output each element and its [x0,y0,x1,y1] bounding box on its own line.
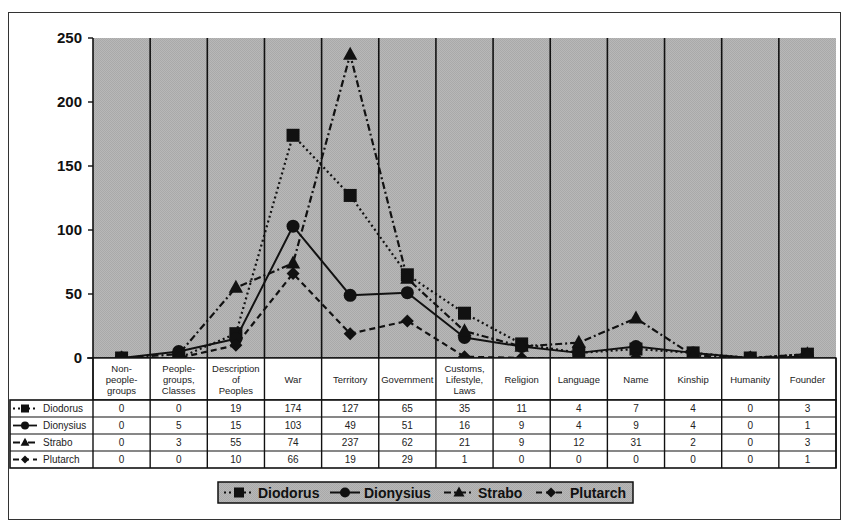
legend-label: Plutarch [570,485,626,501]
series-row-label: Dionysius [43,420,86,431]
table-cell: 55 [230,437,242,448]
category-label: Name [623,374,648,385]
category-label: War [285,374,302,385]
table-cell: 9 [633,420,639,431]
table-cell: 1 [805,454,811,465]
table-cell: 4 [690,420,696,431]
table-cell: 51 [402,420,414,431]
y-tick-label: 250 [57,29,82,46]
square-marker-icon [287,129,300,142]
table-cell: 0 [747,403,753,414]
square-marker-icon [344,189,357,202]
table-cell: 16 [459,420,471,431]
circle-marker-icon [344,289,357,302]
table-cell: 0 [747,437,753,448]
table-cell: 7 [633,403,639,414]
table-cell: 0 [176,454,182,465]
table-cell: 66 [287,454,299,465]
circle-marker-icon [340,488,350,498]
table-cell: 10 [230,454,242,465]
table-cell: 237 [342,437,359,448]
table-cell: 0 [119,403,125,414]
table-cell: 0 [519,454,525,465]
table-cell: 21 [459,437,471,448]
table-cell: 0 [690,454,696,465]
legend-label: Strabo [478,485,522,501]
category-label: Territory [333,374,368,385]
table-cell: 0 [119,420,125,431]
circle-marker-icon [629,340,642,353]
table-cell: 15 [230,420,242,431]
line-chart: 050100150200250 Non-people-groupsPeople-… [0,0,845,530]
table-cell: 0 [176,403,182,414]
table-cell: 0 [119,437,125,448]
data-table: Non-people-groupsPeople-groups,ClassesDe… [10,358,836,468]
table-cell: 4 [690,403,696,414]
table-cell: 1 [805,420,811,431]
table-cell: 127 [342,403,359,414]
legend-label: Diodorus [258,485,320,501]
series-row-label: Plutarch [43,454,80,465]
category-label: Founder [790,374,825,385]
square-marker-icon [234,488,244,498]
square-marker-icon [458,307,471,320]
series-row-label: Strabo [43,437,73,448]
table-cell: 5 [176,420,182,431]
table-cell: 49 [345,420,357,431]
legend: DiodorusDionysiusStraboPlutarch [218,482,633,503]
table-cell: 19 [345,454,357,465]
category-label: Language [558,374,600,385]
category-label: Government [381,374,434,385]
table-cell: 3 [805,403,811,414]
y-tick-label: 100 [57,221,82,238]
category-label: Kinship [678,374,709,385]
series-row-label: Diodorus [43,403,83,414]
table-cell: 19 [230,403,242,414]
circle-marker-icon [287,220,300,233]
table-cell: 2 [690,437,696,448]
table-cell: 103 [285,420,302,431]
y-tick-label: 0 [74,349,82,366]
table-cell: 1 [462,454,468,465]
table-cell: 9 [519,437,525,448]
circle-marker-icon [21,422,29,430]
y-tick-label: 200 [57,93,82,110]
table-cell: 174 [285,403,302,414]
table-cell: 74 [287,437,299,448]
square-marker-icon [21,405,29,413]
category-label: People-groups,Classes [162,363,196,396]
circle-marker-icon [401,286,414,299]
table-cell: 12 [573,437,585,448]
table-cell: 4 [576,403,582,414]
table-cell: 31 [630,437,642,448]
table-cell: 35 [459,403,471,414]
table-cell: 62 [402,437,414,448]
table-cell: 3 [805,437,811,448]
table-cell: 29 [402,454,414,465]
y-tick-label: 150 [57,157,82,174]
table-cell: 11 [516,403,527,414]
category-label: Religion [504,374,538,385]
table-cell: 65 [402,403,414,414]
table-cell: 0 [119,454,125,465]
legend-label: Dionysius [364,485,431,501]
table-cell: 3 [176,437,182,448]
y-tick-label: 50 [65,285,82,302]
table-cell: 9 [519,420,525,431]
table-cell: 4 [576,420,582,431]
category-label: Humanity [730,374,770,385]
table-cell: 0 [576,454,582,465]
table-cell: 0 [747,454,753,465]
table-cell: 0 [747,420,753,431]
table-cell: 0 [633,454,639,465]
